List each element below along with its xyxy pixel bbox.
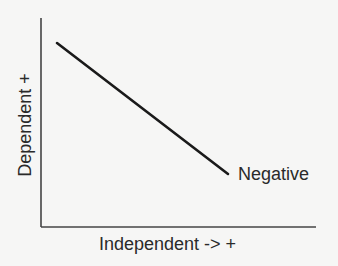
y-axis-label: Dependent + xyxy=(15,73,36,177)
x-axis-label: Independent -> + xyxy=(99,234,236,255)
plot-area xyxy=(0,0,338,266)
negative-line-label: Negative xyxy=(238,164,309,185)
correlation-diagram: Dependent + Independent -> + Negative xyxy=(0,0,338,266)
negative-trend-line xyxy=(57,43,228,174)
